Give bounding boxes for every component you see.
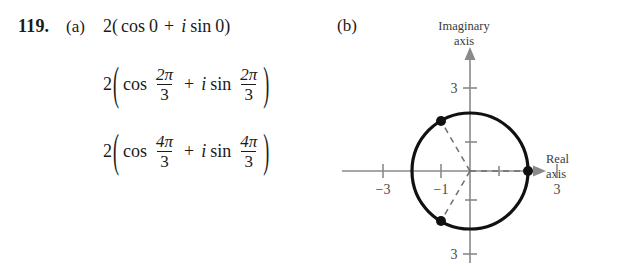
complex-plane-svg: −3 −1 3 3 3: [330, 0, 627, 271]
root-point-120deg: [436, 116, 446, 126]
root-point-0deg: [523, 166, 533, 176]
expr3-sin-label: sin: [210, 141, 231, 162]
tick-label-imaginary-bottom: 3: [451, 247, 458, 262]
expr1-coefficient: 2: [103, 16, 112, 37]
problem-number: 119.: [18, 16, 49, 37]
expr3-close-paren: ): [263, 125, 269, 179]
tick-label-real-minus1: −1: [434, 182, 449, 197]
expr1-cos-argument: 0: [149, 16, 158, 37]
real-axis-arrowhead: [533, 166, 546, 177]
expression-line-2: 2 ( cos 2π 3 + i sin 2π 3 ): [103, 66, 270, 103]
expr2-imaginary-unit: i: [200, 74, 207, 95]
expression-line-1: 2 ( cos 0 + i sin 0 ): [103, 16, 230, 37]
expr2-coefficient: 2: [103, 74, 112, 95]
expr2-sin-numerator: 2π: [237, 66, 260, 84]
root-point-240deg: [436, 216, 446, 226]
tick-label-imaginary-top: 3: [451, 81, 458, 96]
expression-line-3: 2 ( cos 4π 3 + i sin 4π 3 ): [103, 133, 270, 170]
complex-plane-diagram: (b) Imaginary axis Real axis: [330, 0, 627, 271]
expr3-sin-denominator: 3: [241, 151, 256, 170]
expr1-cos-label: cos: [121, 16, 145, 37]
expr2-cos-numerator: 2π: [153, 66, 176, 84]
expr2-close-paren: ): [263, 58, 269, 112]
expr2-sin-denominator: 3: [241, 84, 256, 103]
expr2-cos-denominator: 3: [157, 84, 172, 103]
problem-block: 119. (a) 2 ( cos 0 + i sin 0 ) 2 ( cos 2…: [0, 0, 330, 271]
expr2-sin-fraction: 2π 3: [237, 66, 260, 103]
expr3-cos-label: cos: [123, 141, 147, 162]
axes-group: [342, 47, 546, 263]
tick-label-real-minus3: −3: [376, 182, 391, 197]
expr2-open-paren: (: [113, 58, 119, 112]
expr3-cos-denominator: 3: [157, 151, 172, 170]
expr1-open-paren: (: [112, 16, 118, 37]
imaginary-axis-arrowhead: [465, 47, 476, 60]
expr2-plus-sign: +: [178, 74, 200, 95]
expr3-cos-numerator: 4π: [153, 133, 176, 151]
expr1-sin-label: sin: [190, 16, 211, 37]
expr3-sin-numerator: 4π: [237, 133, 260, 151]
expr1-imaginary-unit: i: [180, 16, 187, 37]
expr3-open-paren: (: [113, 125, 119, 179]
expr1-plus-sign: +: [158, 16, 180, 37]
expr1-close-paren: ): [224, 16, 230, 37]
expr2-sin-label: sin: [210, 74, 231, 95]
expr3-sin-fraction: 4π 3: [237, 133, 260, 170]
expr3-plus-sign: +: [178, 141, 200, 162]
expr3-coefficient: 2: [103, 141, 112, 162]
expr2-cos-label: cos: [123, 74, 147, 95]
part-a-label: (a): [66, 17, 85, 37]
expr3-imaginary-unit: i: [200, 141, 207, 162]
expr1-sin-argument: 0: [215, 16, 224, 37]
expr3-cos-fraction: 4π 3: [153, 133, 176, 170]
radius-root-120deg: [441, 121, 470, 171]
tick-label-real-plus3: 3: [554, 182, 561, 197]
expr2-cos-fraction: 2π 3: [153, 66, 176, 103]
